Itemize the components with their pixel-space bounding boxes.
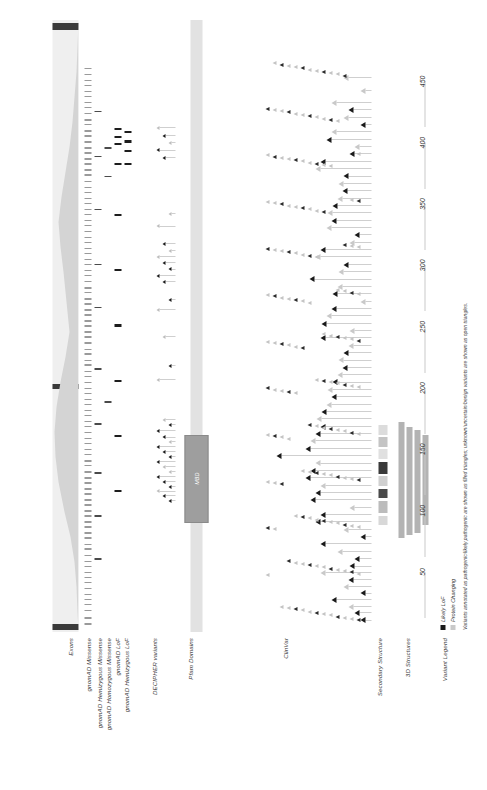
clinvar-variant-triangle-extra-138[interactable] [342,243,346,247]
clinvar-variant-triangle-extra-120[interactable] [314,471,318,475]
clinvar-variant-triangle-16[interactable] [349,505,354,511]
clinvar-variant-triangle-extra-111[interactable] [349,291,353,295]
clinvar-variant-triangle-extra-148[interactable] [314,378,318,382]
clinvar-variant-triangle-68[interactable] [360,122,365,128]
clinvar-variant-triangle-extra-50[interactable] [314,115,318,119]
clinvar-variant-triangle-extra-37[interactable] [321,117,325,121]
clinvar-variant-triangle-extra-21[interactable] [307,254,311,258]
clinvar-variant-triangle-37[interactable] [343,350,348,356]
clinvar-variant-triangle-extra-101[interactable] [279,156,283,160]
clinvar-variant-triangle-extra-86[interactable] [272,248,276,252]
clinvar-variant-triangle-extra-74[interactable] [286,204,290,208]
decipher-variant-triangle-14[interactable] [156,429,159,433]
clinvar-variant-triangle-extra-47[interactable] [293,251,297,255]
clinvar-variant-triangle-28[interactable] [316,416,321,422]
clinvar-variant-triangle-extra-109[interactable] [335,381,339,385]
clinvar-variant-triangle-extra-127[interactable] [265,153,269,157]
clinvar-variant-triangle-extra-136[interactable] [328,334,332,338]
clinvar-variant-triangle-extra-85[interactable] [265,293,269,297]
clinvar-variant-triangle-extra-142[interactable] [272,61,276,65]
clinvar-variant-triangle-extra-13[interactable] [349,617,353,621]
clinvar-variant-triangle-23[interactable] [276,453,281,459]
clinvar-variant-triangle-extra-18[interactable] [286,390,290,394]
clinvar-variant-triangle-43[interactable] [331,306,336,312]
clinvar-variant-triangle-extra-113[interactable] [265,200,269,204]
decipher-variant-triangle-23[interactable] [156,274,159,278]
clinvar-variant-triangle-53[interactable] [354,232,359,238]
clinvar-variant-triangle-extra-32[interactable] [286,343,290,347]
clinvar-variant-triangle-extra-8[interactable] [314,255,318,259]
decipher-variant-triangle-7[interactable] [162,465,165,469]
clinvar-variant-triangle-44[interactable] [360,299,365,305]
clinvar-variant-triangle-extra-64[interactable] [314,69,318,73]
clinvar-variant-triangle-extra-87[interactable] [279,202,283,206]
clinvar-variant-triangle-38[interactable] [348,343,353,349]
clinvar-variant-triangle-3[interactable] [331,597,336,603]
clinvar-variant-triangle-extra-4[interactable] [286,437,290,441]
decipher-variant-triangle-27[interactable] [168,249,171,253]
clinvar-variant-triangle-extra-107[interactable] [321,472,325,476]
decipher-variant-triangle-32[interactable] [156,148,159,152]
clinvar-variant-triangle-extra-2[interactable] [272,527,276,531]
clinvar-variant-triangle-extra-56[interactable] [356,432,360,436]
clinvar-variant-triangle-extra-149[interactable] [321,332,325,336]
clinvar-variant-triangle-extra-65[interactable] [321,612,325,616]
clinvar-variant-triangle-extra-118[interactable] [300,562,304,566]
clinvar-variant-triangle-extra-102[interactable] [286,110,290,114]
clinvar-variant-triangle-extra-7[interactable] [307,301,311,305]
clinvar-variant-triangle-4[interactable] [360,590,365,596]
clinvar-variant-triangle-29[interactable] [321,409,326,415]
clinvar-variant-triangle-24[interactable] [305,446,310,452]
clinvar-variant-triangle-6[interactable] [348,577,353,583]
clinvar-variant-triangle-extra-89[interactable] [293,112,297,116]
clinvar-variant-triangle-extra-59[interactable] [279,296,283,300]
clinvar-variant-triangle-30[interactable] [326,402,331,408]
clinvar-variant-triangle-extra-72[interactable] [272,294,276,298]
clinvar-variant-triangle-72[interactable] [360,88,365,94]
clinvar-variant-triangle-extra-114[interactable] [272,155,276,159]
decipher-variant-triangle-8[interactable] [156,460,159,464]
clinvar-variant-triangle-extra-73[interactable] [279,249,283,253]
clinvar-variant-triangle-extra-67[interactable] [335,521,339,525]
clinvar-variant-triangle-20[interactable] [305,475,310,481]
clinvar-variant-triangle-extra-43[interactable] [265,433,269,437]
clinvar-variant-triangle-extra-33[interactable] [293,298,297,302]
clinvar-variant-triangle-extra-3[interactable] [279,482,283,486]
clinvar-variant-triangle-extra-124[interactable] [342,290,346,294]
clinvar-variant-triangle-extra-5[interactable] [293,391,297,395]
clinvar-variant-triangle-17[interactable] [310,497,315,503]
decipher-variant-triangle-11[interactable] [156,445,159,449]
clinvar-variant-triangle-extra-92[interactable] [314,564,318,568]
clinvar-variant-triangle-extra-9[interactable] [321,210,325,214]
clinvar-variant-triangle-extra-129[interactable] [279,63,283,67]
clinvar-variant-triangle-extra-61[interactable] [293,205,297,209]
clinvar-variant-triangle-extra-53[interactable] [335,568,339,572]
clinvar-variant-triangle-extra-26[interactable] [342,616,346,620]
clinvar-variant-triangle-extra-137[interactable] [335,288,339,292]
3d-structure-bar-1[interactable] [406,427,412,535]
clinvar-variant-triangle-66[interactable] [326,137,331,143]
clinvar-variant-triangle-extra-42[interactable] [356,478,360,482]
clinvar-variant-triangle-36[interactable] [338,357,343,363]
clinvar-variant-triangle-extra-110[interactable] [342,336,346,340]
clinvar-variant-triangle-extra-62[interactable] [300,160,304,164]
clinvar-variant-triangle-extra-55[interactable] [349,477,353,481]
clinvar-variant-triangle-extra-57[interactable] [265,386,269,390]
clinvar-variant-triangle-extra-141[interactable] [265,107,269,111]
clinvar-variant-triangle-extra-144[interactable] [286,559,290,563]
clinvar-variant-triangle-5[interactable] [343,584,348,590]
clinvar-variant-triangle-extra-96[interactable] [342,383,346,387]
clinvar-variant-triangle-extra-115[interactable] [279,109,283,113]
clinvar-variant-triangle-extra-90[interactable] [300,66,304,70]
clinvar-variant-triangle-extra-125[interactable] [349,244,353,248]
clinvar-variant-triangle-extra-81[interactable] [335,475,339,479]
clinvar-variant-triangle-48[interactable] [338,269,343,275]
decipher-variant-triangle-22[interactable] [162,280,165,284]
decipher-variant-triangle-18[interactable] [168,364,171,368]
clinvar-variant-triangle-extra-94[interactable] [328,473,332,477]
clinvar-variant-triangle-2[interactable] [348,604,353,610]
clinvar-variant-triangle-26[interactable] [315,431,320,437]
clinvar-variant-triangle-extra-66[interactable] [328,567,332,571]
clinvar-variant-triangle-0[interactable] [360,617,365,623]
clinvar-variant-triangle-18[interactable] [315,490,320,496]
